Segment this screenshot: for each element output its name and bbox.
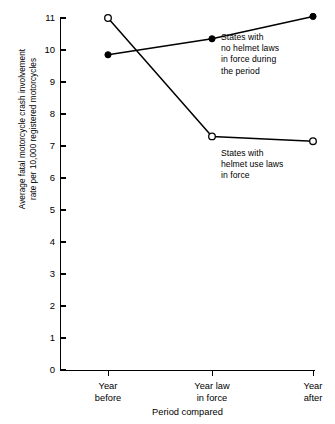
data-point-marker	[209, 36, 215, 42]
chart-figure: Average fatal motorcycle crash involveme…	[0, 0, 335, 424]
data-point-marker	[310, 13, 316, 19]
series-annotation-helmet-use-laws: States with helmet use laws in force	[221, 148, 326, 182]
data-point-marker	[105, 52, 111, 58]
series-annotation-no-helmet-laws: States with no helmet laws in force duri…	[221, 32, 326, 77]
data-point-marker	[310, 138, 317, 145]
x-axis-title: Period compared	[60, 407, 315, 417]
data-point-marker	[209, 133, 216, 140]
data-point-marker	[105, 15, 112, 22]
